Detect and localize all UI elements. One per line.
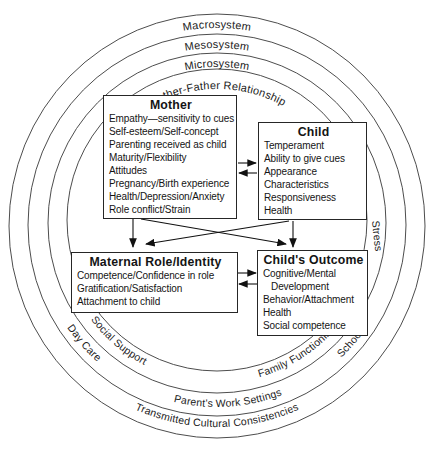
box-item: Characteristics: [264, 178, 363, 191]
box-item: Attitudes: [109, 164, 233, 177]
parents-work-settings-label: Parent's Work Settings: [173, 385, 283, 409]
child-box-items: TemperamentAbility to give cuesAppearanc…: [264, 139, 363, 217]
box-item: Parenting received as child: [109, 138, 233, 151]
child-box-title: Child: [264, 125, 363, 139]
box-item: Social competence: [263, 319, 364, 332]
mother-box-title: Mother: [109, 98, 233, 112]
box-item: Cognitive/Mental: [263, 267, 364, 280]
childs-outcome-box: Child's Outcome Cognitive/Mental Develop…: [257, 250, 368, 336]
box-item: Temperament: [264, 139, 363, 152]
microsystem-label: Microsystem: [184, 57, 251, 72]
box-item: Health: [264, 204, 363, 217]
rings-and-arrows-svg: Macrosystem Mesosystem Microsystem Mothe…: [0, 0, 433, 449]
box-item: Competence/Confidence in role: [77, 269, 234, 282]
box-item: Responsiveness: [264, 191, 363, 204]
box-item: Gratification/Satisfaction: [77, 282, 234, 295]
box-item: Maturity/Flexibility: [109, 151, 233, 164]
childs-outcome-box-title: Child's Outcome: [263, 253, 364, 267]
box-item: Self-esteem/Self-concept: [109, 125, 233, 138]
maternal-role-box-items: Competence/Confidence in roleGratificati…: [77, 269, 234, 308]
stress-label: Stress: [370, 220, 385, 252]
ecological-model-diagram: Macrosystem Mesosystem Microsystem Mothe…: [0, 0, 433, 449]
macrosystem-circle: [9, 14, 425, 438]
box-item: Development: [263, 280, 364, 293]
box-item: Health: [263, 306, 364, 319]
box-item: Attachment to child: [77, 295, 234, 308]
box-item: Role conflict/Strain: [109, 203, 233, 216]
maternal-role-box-title: Maternal Role/Identity: [77, 255, 234, 269]
mother-box: Mother Empathy—sensitivity to cuesSelf-e…: [103, 95, 237, 219]
mother-to-outcome-diagonal-arrow: [141, 219, 286, 244]
box-item: Pregnancy/Birth experience: [109, 177, 233, 190]
box-item: Empathy—sensitivity to cues: [109, 112, 233, 125]
box-item: Ability to give cues: [264, 152, 363, 165]
mother-box-items: Empathy—sensitivity to cuesSelf-esteem/S…: [109, 112, 233, 216]
mesosystem-label: Mesosystem: [184, 38, 250, 53]
box-item: Health/Depression/Anxiety: [109, 190, 233, 203]
box-item: Behavior/Attachment: [263, 293, 364, 306]
mesosystem-circle: [28, 34, 406, 416]
childs-outcome-box-items: Cognitive/Mental DevelopmentBehavior/Att…: [263, 267, 364, 332]
box-item: Appearance: [264, 165, 363, 178]
macrosystem-label: Macrosystem: [182, 18, 252, 33]
maternal-role-box: Maternal Role/Identity Competence/Confid…: [71, 252, 238, 313]
child-box: Child TemperamentAbility to give cuesApp…: [258, 122, 367, 220]
